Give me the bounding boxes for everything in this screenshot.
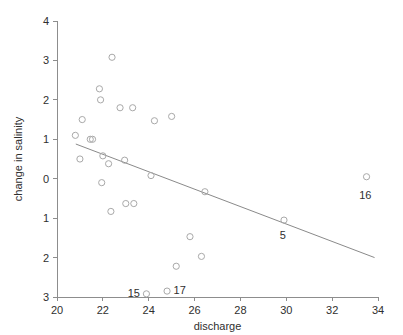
data-point-24	[198, 253, 204, 259]
data-point-20	[164, 288, 170, 294]
y-tick-label-6: 2	[43, 252, 49, 264]
data-point-17	[143, 291, 149, 297]
y-tick-label-4: 0	[43, 173, 49, 185]
data-points	[72, 54, 369, 297]
data-point-1	[77, 156, 83, 162]
data-point-22	[173, 263, 179, 269]
annotation-16: 16	[359, 189, 371, 201]
x-tick-label-0: 20	[51, 304, 63, 316]
data-point-19	[151, 118, 157, 124]
annotation-5: 5	[280, 229, 286, 241]
y-tick-label-3: 1	[43, 133, 49, 145]
regression-line	[76, 144, 375, 258]
x-tick-label-2: 24	[143, 304, 155, 316]
y-tick-label-7: 3	[43, 291, 49, 303]
y-axis: 43210123	[43, 15, 57, 303]
y-tick-label-0: 4	[43, 15, 49, 27]
fit-line	[76, 144, 375, 258]
data-point-7	[99, 180, 105, 186]
data-point-26	[281, 217, 287, 223]
scatter-plot-figure: 43210123 2022242628303234 1517516 discha…	[0, 0, 403, 335]
y-tick-label-2: 2	[43, 94, 49, 106]
data-point-14	[123, 200, 129, 206]
plot-canvas: 43210123 2022242628303234 1517516 discha…	[0, 0, 403, 335]
x-axis-title: discharge	[194, 320, 242, 332]
x-tick-label-7: 34	[372, 304, 384, 316]
y-axis-title: change in salinity	[12, 116, 24, 201]
y-tick-label-1: 3	[43, 54, 49, 66]
data-point-18	[148, 172, 154, 178]
annotation-17: 17	[174, 284, 186, 296]
x-tick-label-6: 32	[326, 304, 338, 316]
data-point-9	[105, 161, 111, 167]
data-point-8	[100, 153, 106, 159]
data-point-11	[109, 54, 115, 60]
data-point-12	[117, 105, 123, 111]
point-annotations: 1517516	[128, 189, 372, 299]
y-tick-label-5: 1	[43, 212, 49, 224]
data-point-27	[363, 174, 369, 180]
x-tick-label-4: 28	[234, 304, 246, 316]
data-point-0	[72, 132, 78, 138]
annotation-15: 15	[128, 287, 140, 299]
data-point-5	[96, 86, 102, 92]
data-point-15	[130, 105, 136, 111]
data-point-10	[108, 208, 114, 214]
x-tick-label-1: 22	[97, 304, 109, 316]
data-point-23	[187, 234, 193, 240]
data-point-21	[169, 113, 175, 119]
x-tick-label-5: 30	[280, 304, 292, 316]
data-point-6	[97, 97, 103, 103]
data-point-2	[79, 116, 85, 122]
x-tick-label-3: 26	[188, 304, 200, 316]
x-axis: 2022242628303234	[51, 297, 384, 316]
data-point-16	[131, 200, 137, 206]
